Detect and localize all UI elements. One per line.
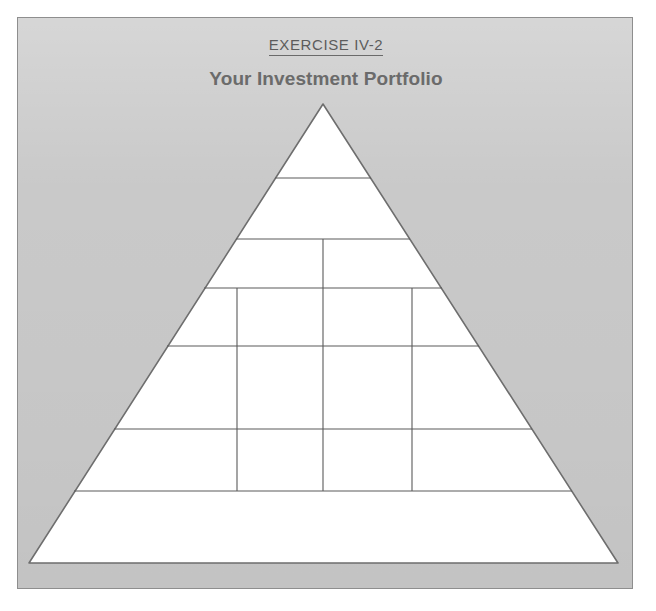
pyramid-cell-tier5-4[interactable]: [412, 346, 532, 429]
pyramid-cell-tier6-2[interactable]: [237, 429, 323, 491]
page-root: EXERCISE IV-2 Your Investment Portfolio: [0, 0, 656, 611]
pyramid-cell-tier5-1[interactable]: [114, 346, 237, 429]
pyramid-cell-tier5-3[interactable]: [323, 346, 412, 429]
pyramid-cell-tier3-2[interactable]: [323, 239, 442, 288]
pyramid-svg: [18, 18, 634, 590]
pyramid-cell-tier6-3[interactable]: [323, 429, 412, 491]
pyramid-cell-tier7-1[interactable]: [29, 491, 618, 563]
pyramid-cell-tier2-1[interactable]: [236, 178, 410, 239]
pyramid-cell-tier4-2[interactable]: [237, 288, 323, 346]
pyramid-cell-tier3-1[interactable]: [204, 239, 323, 288]
pyramid-cell-tier4-4[interactable]: [412, 288, 479, 346]
worksheet-panel: EXERCISE IV-2 Your Investment Portfolio: [17, 17, 633, 589]
pyramid-cell-tier1-1[interactable]: [275, 104, 371, 178]
pyramid-cells: [29, 104, 618, 563]
pyramid-cell-tier5-2[interactable]: [237, 346, 323, 429]
pyramid-cell-tier6-1[interactable]: [74, 429, 237, 491]
pyramid-cell-tier6-4[interactable]: [412, 429, 572, 491]
pyramid-cell-tier4-1[interactable]: [167, 288, 237, 346]
pyramid-cell-tier4-3[interactable]: [323, 288, 412, 346]
investment-pyramid: [18, 18, 634, 590]
